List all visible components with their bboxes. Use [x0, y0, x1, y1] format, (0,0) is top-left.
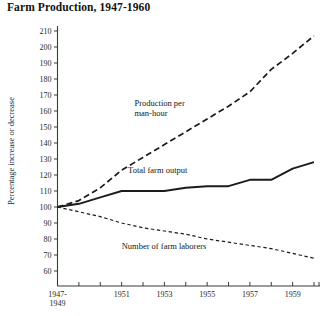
line-chart-plot: 6070809010011012013014015016017018019020… — [0, 0, 323, 316]
y-tick-label: 110 — [40, 187, 52, 196]
series-label-production-per-man-hour-line2: man-hour — [134, 108, 167, 118]
series-line-production-per-man-hour — [58, 36, 315, 207]
x-tick-label: 1953 — [156, 290, 172, 299]
y-tick-label: 210 — [40, 27, 52, 36]
y-tick-label: 140 — [40, 139, 52, 148]
series-annotations: Production perman-hourTotal farm outputN… — [122, 98, 207, 250]
x-axis: 1947-194919511953195519571959 — [48, 282, 320, 308]
axis-titles: Percentage increase or decrease — [6, 97, 16, 205]
y-tick-label: 70 — [44, 251, 52, 260]
y-tick-label: 200 — [40, 43, 52, 52]
x-tick-label: 1955 — [199, 290, 215, 299]
y-tick-label: 120 — [40, 171, 52, 180]
y-tick-label: 180 — [40, 75, 52, 84]
chart-figure: Farm Production, 1947-1960 6070809010011… — [0, 0, 323, 316]
series-label-total-farm-output: Total farm output — [128, 165, 188, 175]
y-tick-label: 130 — [40, 155, 52, 164]
y-tick-label: 80 — [44, 235, 52, 244]
series-label-number-of-farm-laborers: Number of farm laborers — [122, 241, 207, 251]
y-tick-label: 90 — [44, 219, 52, 228]
x-tick-label: 1951 — [114, 290, 130, 299]
x-tick-label: 1947- — [48, 290, 67, 299]
y-tick-label: 150 — [40, 123, 52, 132]
x-tick-label: 1959 — [285, 290, 301, 299]
series-label-production-per-man-hour: Production per — [134, 98, 184, 108]
series-lines — [58, 36, 315, 258]
y-tick-label: 170 — [40, 91, 52, 100]
x-tick-label: 1957 — [242, 290, 258, 299]
y-axis: 6070809010011012013014015016017018019020… — [40, 26, 58, 286]
x-tick-label: 1949 — [50, 299, 66, 308]
y-tick-label: 190 — [40, 59, 52, 68]
y-tick-label: 100 — [40, 203, 52, 212]
y-axis-title: Percentage increase or decrease — [6, 97, 16, 205]
y-tick-label: 160 — [40, 107, 52, 116]
y-tick-label: 60 — [44, 267, 52, 276]
